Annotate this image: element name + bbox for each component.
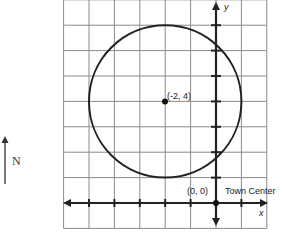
town-center-label: Town Center [225, 186, 276, 196]
x-axis [63, 199, 268, 207]
center-label: (-2, 4) [167, 91, 191, 101]
north-label: N [12, 154, 21, 168]
x-axis-label: x [258, 208, 264, 218]
compass: N [2, 136, 22, 184]
origin-point [213, 200, 219, 206]
coordinate-diagram: (-2, 4) (0, 0) Town Center y x N [0, 0, 284, 232]
y-axis-up-arrow-icon [212, 2, 220, 10]
y-axis-label: y [223, 2, 229, 12]
y-axis [211, 2, 221, 226]
north-arrow-icon [2, 136, 9, 143]
y-axis-down-arrow-icon [212, 218, 220, 226]
x-axis-left-arrow-icon [63, 199, 71, 207]
origin-label: (0, 0) [187, 186, 208, 196]
diagram-canvas: (-2, 4) (0, 0) Town Center y x N [0, 0, 284, 232]
